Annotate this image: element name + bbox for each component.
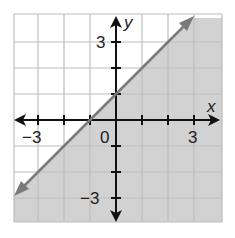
- origin-label: 0: [100, 128, 109, 147]
- x-tick-label-3: 3: [188, 128, 197, 147]
- x-axis-label: x: [206, 97, 216, 116]
- y-tick-label-3: 3: [96, 33, 105, 52]
- coordinate-plane: y x 3 −3 −3 3 0: [0, 0, 235, 238]
- y-tick-label-neg3: −3: [80, 189, 99, 208]
- x-tick-label-neg3: −3: [22, 128, 41, 147]
- y-axis-label: y: [123, 13, 134, 32]
